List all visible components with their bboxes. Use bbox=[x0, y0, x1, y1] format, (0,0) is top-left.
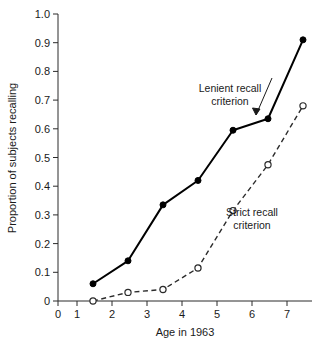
data-point-lenient-2 bbox=[125, 258, 131, 264]
annotation-lenient-line1: Lenient recall bbox=[199, 82, 261, 94]
x-tick-label: 6 bbox=[249, 308, 255, 320]
data-point-lenient-3 bbox=[160, 202, 166, 208]
data-point-lenient-7 bbox=[300, 37, 306, 43]
x-axis-tick-labels: 0 1 2 3 4 5 6 7 bbox=[55, 308, 290, 320]
series-lenient-recall bbox=[90, 37, 306, 287]
series-path-strict bbox=[93, 106, 303, 301]
data-point-lenient-5 bbox=[230, 127, 236, 133]
data-point-lenient-4 bbox=[195, 177, 201, 183]
y-tick-label: 0.8 bbox=[35, 65, 50, 77]
y-axis-ticks bbox=[53, 14, 58, 301]
series-path-lenient bbox=[93, 40, 303, 284]
data-point-strict-7 bbox=[300, 103, 306, 109]
data-point-strict-2 bbox=[125, 289, 131, 295]
annotation-strict-recall: Strict recall criterion bbox=[226, 206, 278, 231]
x-tick-label: 3 bbox=[144, 308, 150, 320]
data-point-strict-3 bbox=[160, 286, 166, 292]
y-tick-label: 0.5 bbox=[35, 152, 50, 164]
chart-figure: 0 0.1 0.2 0.3 0.4 0.5 0.6 0.7 0.8 0.9 1.… bbox=[0, 0, 329, 341]
annotation-lenient-arrowhead bbox=[253, 108, 261, 115]
y-axis-title: Proportion of subjects recalling bbox=[6, 83, 18, 233]
data-point-strict-1 bbox=[90, 298, 96, 304]
y-tick-label: 1.0 bbox=[35, 8, 50, 20]
data-point-strict-4 bbox=[195, 265, 201, 271]
annotation-lenient-line2: criterion bbox=[211, 95, 249, 107]
y-axis-tick-labels: 0 0.1 0.2 0.3 0.4 0.5 0.6 0.7 0.8 0.9 1.… bbox=[35, 8, 50, 307]
x-tick-label: 7 bbox=[284, 308, 290, 320]
y-tick-label: 0.1 bbox=[35, 266, 50, 278]
x-tick-label: 1 bbox=[74, 308, 80, 320]
y-tick-label: 0.3 bbox=[35, 209, 50, 221]
x-tick-label: 0 bbox=[55, 308, 61, 320]
annotation-strict-line1: Strict recall bbox=[226, 206, 278, 218]
annotation-strict-line2: criterion bbox=[233, 219, 271, 231]
data-point-strict-6 bbox=[265, 162, 271, 168]
y-tick-label: 0.6 bbox=[35, 123, 50, 135]
line-chart-plot: 0 0.1 0.2 0.3 0.4 0.5 0.6 0.7 0.8 0.9 1.… bbox=[0, 0, 329, 341]
y-tick-label: 0.9 bbox=[35, 37, 50, 49]
x-axis-title: Age in 1963 bbox=[156, 326, 215, 338]
x-tick-label: 5 bbox=[214, 308, 220, 320]
y-tick-label: 0.2 bbox=[35, 238, 50, 250]
data-point-lenient-1 bbox=[90, 281, 96, 287]
y-tick-label: 0.7 bbox=[35, 94, 50, 106]
data-point-lenient-6 bbox=[265, 116, 271, 122]
y-tick-label: 0 bbox=[44, 295, 50, 307]
y-tick-label: 0.4 bbox=[35, 180, 50, 192]
series-strict-recall bbox=[90, 103, 306, 304]
x-tick-label: 2 bbox=[109, 308, 115, 320]
annotation-lenient-recall: Lenient recall criterion bbox=[199, 78, 272, 115]
x-tick-label: 4 bbox=[179, 308, 185, 320]
